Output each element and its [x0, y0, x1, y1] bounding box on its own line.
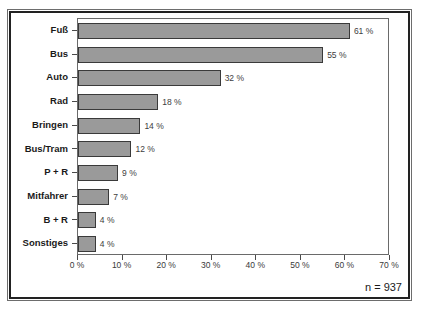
x-axis-tick-label: 0 % [70, 260, 85, 270]
plot-area: 61 %55 %32 %18 %14 %12 %9 %7 %4 %4 % [77, 18, 389, 255]
bar-value-label: 12 % [131, 144, 154, 154]
bar-row: 7 % [78, 185, 388, 209]
bar-value-label: 61 % [350, 26, 373, 36]
bar [78, 118, 140, 134]
category-label: Bus/Tram [25, 137, 77, 161]
chart-figure: FußBusAutoRadBringenBus/TramP + RMitfahr… [0, 0, 421, 311]
bar-value-label: 4 % [96, 215, 115, 225]
category-axis-labels: FußBusAutoRadBringenBus/TramP + RMitfahr… [0, 18, 77, 255]
category-label: Bringen [32, 113, 77, 137]
bar-value-label: 32 % [221, 73, 244, 83]
bar [78, 23, 350, 39]
bar-row: 32 % [78, 66, 388, 90]
bar-value-label: 4 % [96, 239, 115, 249]
x-axis-tick-label: 40 % [246, 260, 265, 270]
category-label: Mitfahrer [27, 184, 77, 208]
bar-value-label: 55 % [323, 50, 346, 60]
bar-value-label: 14 % [140, 121, 163, 131]
bar-row: 14 % [78, 114, 388, 138]
bar-row: 55 % [78, 43, 388, 67]
bar-row: 12 % [78, 138, 388, 162]
bar [78, 94, 158, 110]
bar-row: 4 % [78, 209, 388, 233]
x-axis-tick-label: 30 % [201, 260, 220, 270]
bar [78, 70, 221, 86]
sample-size-annotation: n = 937 [365, 281, 402, 293]
category-label: Sonstiges [23, 231, 77, 255]
x-axis-tick-label: 10 % [112, 260, 131, 270]
x-axis-tick-label: 20 % [156, 260, 175, 270]
bar [78, 47, 323, 63]
bar [78, 189, 109, 205]
bar [78, 165, 118, 181]
bar [78, 236, 96, 252]
bar-value-label: 7 % [109, 192, 128, 202]
x-axis-tick-label: 60 % [335, 260, 354, 270]
x-axis-tick-label: 70 % [379, 260, 398, 270]
bar-value-label: 9 % [118, 168, 137, 178]
bar-row: 4 % [78, 232, 388, 256]
bar [78, 212, 96, 228]
bar-row: 9 % [78, 161, 388, 185]
x-axis: 0 %10 %20 %30 %40 %50 %60 %70 % [77, 255, 389, 277]
bar-value-label: 18 % [158, 97, 181, 107]
bar-row: 18 % [78, 90, 388, 114]
x-axis-tick-label: 50 % [290, 260, 309, 270]
bar-row: 61 % [78, 19, 388, 43]
bar [78, 141, 131, 157]
